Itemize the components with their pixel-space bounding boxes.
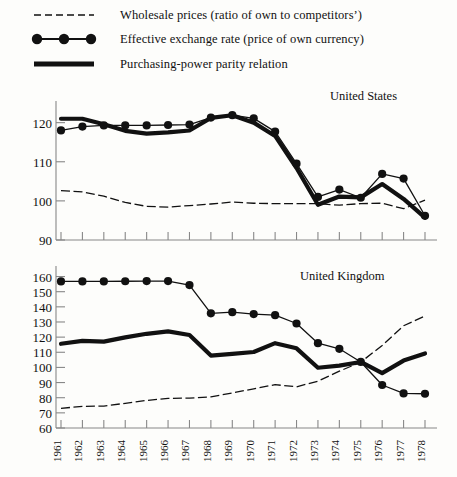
x-axis-tick-label: 1964 [115, 440, 127, 463]
y-axis-tick-label: 90 [39, 376, 52, 391]
y-axis-tick-label: 130 [33, 315, 53, 330]
legend-item-label: Purchasing-power parity relation [120, 58, 288, 71]
series-effective-exchange-rate-marker [164, 277, 172, 285]
y-axis-tick-label: 160 [33, 270, 53, 285]
series-ppp-relation [61, 331, 425, 373]
series-effective-exchange-rate-marker [100, 277, 108, 285]
y-axis-tick-label: 80 [39, 391, 52, 406]
x-axis-tick-label: 1969 [222, 440, 234, 463]
x-axis-tick-label: 1976 [372, 440, 384, 463]
y-axis-tick-label: 70 [39, 406, 52, 421]
chart-united-states: 90100110120United States [0, 82, 457, 250]
y-axis-tick-label: 120 [33, 116, 53, 131]
legend-item-effective-exchange-rate: Effective exchange rate (price of own cu… [28, 30, 364, 48]
series-effective-exchange-rate-marker [185, 281, 193, 289]
x-axis-tick-label: 1978 [415, 440, 427, 463]
chart-united-states-canvas: 90100110120United States [0, 82, 457, 250]
series-effective-exchange-rate-marker [250, 310, 258, 318]
chart-legend: Wholesale prices (ratio of own to compet… [0, 0, 457, 82]
series-effective-exchange-rate-marker [143, 277, 151, 285]
series-effective-exchange-rate-marker [207, 309, 215, 317]
series-effective-exchange-rate [61, 115, 425, 216]
x-axis-tick-label: 1961 [51, 440, 63, 462]
y-axis-tick-label: 100 [33, 360, 53, 375]
series-wholesale-prices [61, 316, 425, 408]
x-axis-tick-label: 1977 [394, 440, 406, 463]
x-axis-tick-label: 1966 [158, 440, 170, 463]
series-effective-exchange-rate-marker [378, 170, 386, 178]
series-effective-exchange-rate-marker [335, 185, 343, 193]
chart-united-kingdom: 60708090100110120130140150160United King… [0, 250, 457, 477]
x-axis-tick-label: 1974 [329, 440, 341, 463]
series-effective-exchange-rate-marker [292, 160, 300, 168]
series-effective-exchange-rate-marker [57, 277, 65, 285]
series-effective-exchange-rate-marker [292, 319, 300, 327]
y-axis-tick-label: 110 [33, 345, 52, 360]
y-axis-tick-label: 140 [33, 300, 53, 315]
series-effective-exchange-rate-marker [100, 121, 108, 129]
chart-united-kingdom-canvas: 60708090100110120130140150160United King… [0, 250, 457, 477]
y-axis-tick-label: 100 [33, 194, 53, 209]
legend-item-wholesale-prices: Wholesale prices (ratio of own to compet… [28, 6, 362, 24]
series-effective-exchange-rate-marker [357, 194, 365, 202]
series-effective-exchange-rate-marker [250, 114, 258, 122]
series-effective-exchange-rate-marker [185, 121, 193, 129]
series-effective-exchange-rate-marker [314, 193, 322, 201]
thick-line-key [28, 55, 120, 73]
series-effective-exchange-rate-marker [121, 121, 129, 129]
series-effective-exchange-rate-marker [335, 345, 343, 353]
y-axis-tick-label: 120 [33, 330, 53, 345]
series-effective-exchange-rate-marker [228, 111, 236, 119]
series-effective-exchange-rate-marker [228, 308, 236, 316]
x-axis-tick-label: 1962 [72, 440, 84, 462]
series-effective-exchange-rate-marker [357, 358, 365, 366]
x-axis-tick-label: 1965 [137, 440, 149, 463]
x-axis-tick-label: 1970 [244, 440, 256, 463]
x-axis-tick-label: 1968 [201, 440, 213, 463]
series-effective-exchange-rate-marker [271, 311, 279, 319]
figure-root: Wholesale prices (ratio of own to compet… [0, 0, 457, 477]
legend-item-ppp-relation: Purchasing-power parity relation [28, 55, 288, 73]
dashed-line-key [28, 6, 120, 24]
series-effective-exchange-rate-marker [314, 339, 322, 347]
x-axis-tick-label: 1967 [179, 440, 191, 463]
y-axis-tick-label: 60 [39, 421, 52, 436]
series-effective-exchange-rate-marker [121, 277, 129, 285]
x-axis-tick-label: 1975 [351, 440, 363, 463]
x-axis-tick-label: 1971 [265, 440, 277, 462]
panel-title: United Kingdom [300, 269, 385, 283]
legend-item-label: Effective exchange rate (price of own cu… [120, 33, 364, 46]
panel-title: United States [330, 89, 397, 103]
legend-item-label: Wholesale prices (ratio of own to compet… [120, 9, 362, 22]
x-axis-tick-label: 1973 [308, 440, 320, 463]
y-axis-tick-label: 110 [33, 155, 52, 170]
series-effective-exchange-rate-marker [78, 277, 86, 285]
y-axis-tick-label: 90 [39, 233, 52, 248]
series-effective-exchange-rate-marker [421, 212, 429, 220]
series-effective-exchange-rate-marker [164, 121, 172, 129]
series-effective-exchange-rate-marker [378, 381, 386, 389]
x-axis-tick-label: 1963 [94, 440, 106, 463]
y-axis-tick-label: 150 [33, 285, 53, 300]
series-effective-exchange-rate-marker [207, 113, 215, 121]
x-axis-tick-label: 1972 [287, 440, 299, 462]
series-effective-exchange-rate-marker [399, 389, 407, 397]
series-effective-exchange-rate-marker [78, 122, 86, 130]
series-effective-exchange-rate-marker [421, 390, 429, 398]
dotted-line-key [28, 30, 120, 48]
series-effective-exchange-rate-marker [143, 121, 151, 129]
series-effective-exchange-rate-marker [57, 126, 65, 134]
series-effective-exchange-rate-marker [399, 174, 407, 182]
series-effective-exchange-rate-marker [271, 128, 279, 136]
